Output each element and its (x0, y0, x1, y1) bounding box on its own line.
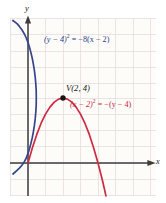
grid-background (10, 18, 156, 196)
parabola-figure: (y − 4)2 = −8(x − 2) (x − 2)2 = −(y − 4)… (0, 0, 166, 203)
vertex-point-marker (60, 95, 65, 100)
plot-canvas (0, 0, 166, 203)
